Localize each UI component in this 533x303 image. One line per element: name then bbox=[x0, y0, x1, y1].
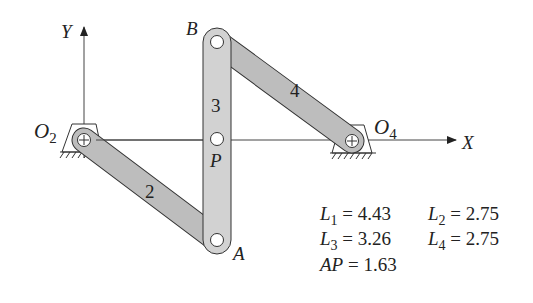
link-3-label: 3 bbox=[211, 95, 221, 116]
pin-a bbox=[211, 234, 224, 247]
label-b: B bbox=[186, 18, 198, 39]
parameter-list: L1 = 4.43 L2 = 2.75 L3 = 3.26 L4 = 2.75 … bbox=[318, 203, 499, 275]
pin-o4 bbox=[346, 135, 359, 148]
link-4-label: 4 bbox=[290, 80, 300, 101]
param-l2: L2 = 2.75 bbox=[427, 203, 499, 228]
link-2-label: 2 bbox=[145, 181, 155, 202]
label-o2: O2 bbox=[34, 119, 57, 146]
x-axis-label: X bbox=[461, 132, 475, 153]
linkage-diagram: X Y 2 bbox=[0, 0, 533, 303]
link-2: 2 bbox=[84, 140, 217, 240]
pin-o2 bbox=[78, 134, 91, 147]
link-4: 4 bbox=[217, 42, 352, 141]
label-o4: O4 bbox=[374, 115, 397, 142]
pin-b bbox=[211, 36, 224, 49]
param-l4: L4 = 2.75 bbox=[427, 228, 499, 253]
label-p: P bbox=[209, 150, 222, 171]
param-l3: L3 = 3.26 bbox=[319, 228, 391, 253]
y-axis-label: Y bbox=[61, 21, 74, 42]
param-ap: AP = 1.63 bbox=[318, 254, 397, 275]
param-l1: L1 = 4.43 bbox=[319, 203, 391, 228]
pin-p bbox=[211, 133, 224, 146]
label-a: A bbox=[231, 243, 245, 264]
